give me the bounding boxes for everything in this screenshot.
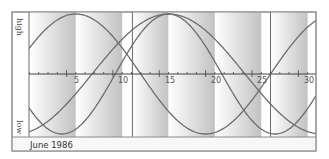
tick-label-15: 15 [165, 76, 175, 85]
tick-label-20: 20 [211, 76, 221, 85]
footer-month-label: June 1986 [29, 140, 73, 150]
tick-label-10: 10 [118, 76, 128, 85]
tick-label-30: 30 [304, 76, 314, 85]
tick-label-5: 5 [74, 76, 79, 85]
tick-label-25: 25 [257, 76, 267, 85]
y-label-high: high [15, 18, 24, 36]
biorhythm-chart: high low June 1986 5 10 15 20 25 30 [0, 0, 329, 159]
y-label-low: low [15, 120, 24, 134]
